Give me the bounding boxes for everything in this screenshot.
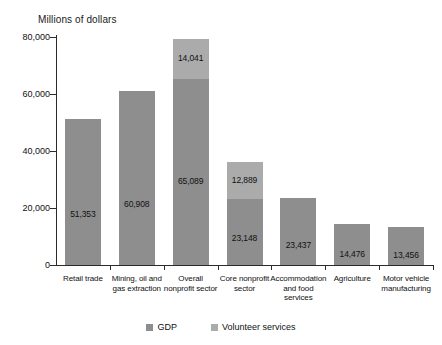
category-label-line: nonprofit sector [160, 284, 222, 294]
category-label-line: gas extraction [106, 284, 168, 294]
x-axis-category-label: Core nonprofitsector [214, 274, 276, 293]
bar-value-label: 23,148 [227, 233, 263, 243]
legend-label: Volunteer services [222, 322, 296, 332]
bar-group[interactable]: 13,456 [388, 227, 424, 265]
bar-group[interactable]: 23,437 [280, 198, 316, 265]
bar-group[interactable]: 60,908 [119, 91, 155, 265]
bar-segment-gdp[interactable] [227, 199, 263, 265]
y-axis-line [56, 35, 57, 266]
x-axis-tick-mark [110, 265, 111, 270]
y-axis-tick-label: 60,000 [6, 89, 50, 99]
category-label-line: services [267, 293, 329, 303]
bar-segment-gdp[interactable] [65, 119, 101, 265]
category-label-line: manufacturing [375, 284, 437, 294]
bar-value-label: 23,437 [280, 240, 316, 250]
x-axis-tick-mark [164, 265, 165, 270]
category-label-line: sector [214, 284, 276, 294]
category-label-line: Overall [160, 274, 222, 284]
x-axis-tick-mark [379, 265, 380, 270]
category-label-line: Core nonprofit [214, 274, 276, 284]
x-axis-tick-mark [325, 265, 326, 270]
legend-item[interactable]: GDP [146, 322, 177, 332]
bar-value-label: 12,889 [227, 175, 263, 185]
bar-group[interactable]: 12,88923,148 [227, 162, 263, 265]
bar-value-label: 14,041 [173, 53, 209, 63]
x-axis-tick-mark [218, 265, 219, 270]
plot-area: 020,00040,00060,00080,000 51,35360,90814… [0, 0, 442, 345]
bar-segment-gdp[interactable] [280, 198, 316, 265]
x-axis-tick-mark [433, 265, 434, 270]
x-axis-tick-mark [271, 265, 272, 270]
y-axis-tick-mark [50, 94, 56, 95]
y-axis-tick-mark [50, 151, 56, 152]
category-label-line: Retail trade [52, 274, 114, 284]
category-label-line: Mining, oil and [106, 274, 168, 284]
category-label-line: Motor vehicle [375, 274, 437, 284]
bar-value-label: 14,476 [334, 249, 370, 259]
bar-value-label: 65,089 [173, 176, 209, 186]
bar-group[interactable]: 14,476 [334, 224, 370, 265]
y-axis-tick-mark [50, 265, 56, 266]
x-axis-category-label: Mining, oil andgas extraction [106, 274, 168, 293]
legend-swatch-icon [211, 324, 218, 331]
legend-label: GDP [157, 322, 177, 332]
bar-value-label: 51,353 [65, 209, 101, 219]
x-axis-category-label: Overallnonprofit sector [160, 274, 222, 293]
chart-container: Millions of dollars 020,00040,00060,0008… [0, 0, 442, 345]
category-label-line: and food [267, 284, 329, 294]
y-axis-tick: 0 [0, 265, 50, 266]
bar-segment-gdp[interactable] [119, 91, 155, 265]
bar-segment-gdp[interactable] [173, 79, 209, 265]
y-axis-tick: 80,000 [0, 37, 50, 38]
category-label-line: Agriculture [321, 274, 383, 284]
y-axis-tick: 60,000 [0, 94, 50, 95]
y-axis-tick: 40,000 [0, 151, 50, 152]
y-axis-tick: 20,000 [0, 208, 50, 209]
bar-value-label: 13,456 [388, 250, 424, 260]
y-axis-tick-label: 20,000 [6, 203, 50, 213]
chart-legend: GDPVolunteer services [0, 322, 442, 332]
y-axis-tick-label: 40,000 [6, 146, 50, 156]
x-axis-category-label: Motor vehiclemanufacturing [375, 274, 437, 293]
category-label-line: Accommodation [267, 274, 329, 284]
bar-group[interactable]: 51,353 [65, 119, 101, 265]
x-axis-category-label: Accommodationand foodservices [267, 274, 329, 303]
bar-group[interactable]: 14,04165,089 [173, 39, 209, 265]
x-axis-category-label: Agriculture [321, 274, 383, 284]
legend-item[interactable]: Volunteer services [211, 322, 296, 332]
y-axis-tick-label: 80,000 [6, 32, 50, 42]
y-axis-tick-mark [50, 37, 56, 38]
legend-swatch-icon [146, 324, 153, 331]
x-axis-line [56, 265, 433, 266]
x-axis-category-label: Retail trade [52, 274, 114, 284]
bar-value-label: 60,908 [119, 199, 155, 209]
y-axis-tick-mark [50, 208, 56, 209]
y-axis-tick-label: 0 [6, 260, 50, 270]
